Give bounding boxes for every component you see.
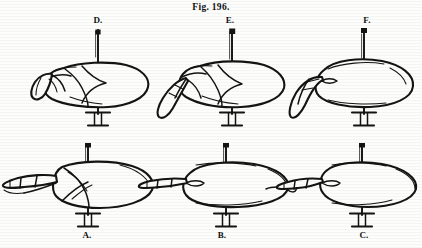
figure-plate: Fig. 196. [0,0,422,248]
specimen-body-C [320,162,416,207]
specimen-body-E [179,61,284,107]
specimen-appendages-A [3,175,57,193]
specimen-body-F [316,59,413,107]
panel-label-D: D. [86,15,110,26]
specimen-figure-F [282,26,422,130]
specimen-figure-A [0,143,160,231]
specimen-body-B [183,162,288,207]
panel-label-E: E. [218,15,242,26]
specimen-figure-C [276,143,422,231]
panel-label-A: A. [75,230,99,241]
specimen-body-D [43,63,148,108]
specimen-figure-E [142,26,292,130]
specimen-appendage-F [290,77,323,118]
panel-label-F: F. [355,15,379,26]
specimen-figure-D [8,26,158,130]
panel-label-C: C. [352,230,376,241]
specimen-appendage-B [139,179,187,189]
panel-label-B: B. [210,230,234,241]
figure-caption: Fig. 196. [0,1,422,13]
